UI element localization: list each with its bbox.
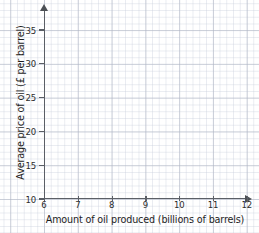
graph-figure: 6 7 8 9 10 11 12 10 15 20 25 30 35 Amoun…: [0, 0, 259, 233]
y-tick-mark: [39, 131, 44, 132]
y-axis-line: [44, 10, 45, 199]
x-tick-label: 8: [101, 200, 123, 210]
x-axis-title: Amount of oil produced (billions of barr…: [34, 214, 256, 225]
plot-area: [44, 30, 247, 199]
x-tick-label: 10: [168, 200, 190, 210]
x-tick-label: 11: [202, 200, 224, 210]
x-tick-label: 7: [67, 200, 89, 210]
y-tick-mark: [39, 198, 44, 199]
x-tick-label: 6: [33, 200, 55, 210]
y-axis-arrow-icon: [40, 4, 48, 11]
x-tick-label: 9: [134, 200, 156, 210]
y-tick-mark: [39, 63, 44, 64]
y-tick-mark: [39, 29, 44, 30]
x-tick-label: 12: [236, 200, 258, 210]
y-tick-mark: [39, 97, 44, 98]
y-axis-title: Average price of oil (£ per barrel): [15, 5, 26, 201]
y-tick-mark: [39, 165, 44, 166]
